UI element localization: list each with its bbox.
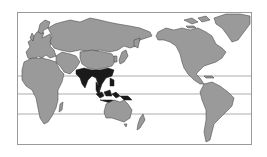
korea [114, 56, 117, 62]
greenland [214, 14, 250, 42]
kamchatka [134, 38, 140, 48]
new-zealand [137, 114, 145, 130]
world-map [0, 0, 267, 157]
japan [119, 50, 128, 64]
tasmania [124, 124, 127, 127]
australia [104, 100, 132, 122]
new-guinea-highlight [120, 96, 132, 100]
south-asia-highlight [76, 68, 114, 90]
north-america [156, 28, 226, 84]
scandinavia [38, 20, 50, 34]
arctic-islands [184, 16, 210, 28]
china [80, 50, 116, 70]
madagascar [59, 102, 63, 112]
caribbean [204, 76, 214, 78]
south-america [200, 82, 234, 142]
